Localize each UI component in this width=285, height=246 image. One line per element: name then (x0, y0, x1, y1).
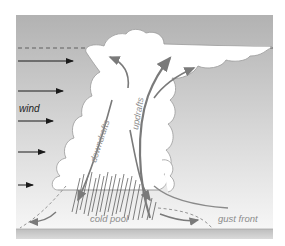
gust-front-label: gust front (218, 213, 258, 224)
thunderstorm-diagram: wind downdrafts updrafts cold pool gust … (0, 0, 285, 246)
cold-pool-label: cold pool (90, 213, 129, 224)
wind-label: wind (19, 103, 40, 114)
ground-strip (16, 229, 273, 239)
